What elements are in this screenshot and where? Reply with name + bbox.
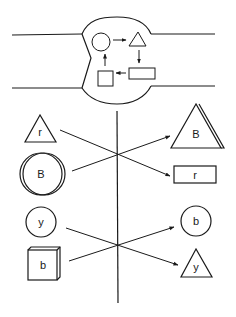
label-left-B: B	[37, 168, 44, 180]
cycle-triangle	[129, 32, 146, 46]
label-right-y: y	[193, 261, 199, 273]
chamber-bottom-arc	[82, 86, 151, 104]
label-right-B: B	[192, 128, 199, 140]
channel-chamber	[12, 17, 215, 104]
channel-top-left-wall	[12, 34, 82, 35]
label-left-y: y	[38, 216, 44, 228]
label-left-b: b	[40, 259, 46, 271]
cycle-circle	[92, 33, 110, 51]
mapping-2: y b b y	[26, 206, 212, 280]
chamber-left-wall	[82, 34, 91, 88]
right-triangle-B	[171, 104, 221, 148]
line-b-to-circle	[69, 227, 174, 261]
line-y-to-triangle	[66, 228, 178, 265]
cycle	[92, 32, 155, 86]
chamber-top-arc	[82, 17, 151, 34]
label-right-b: b	[193, 215, 199, 227]
vertical-divider	[117, 111, 118, 303]
label-right-r: r	[193, 169, 197, 181]
right-triangle-B-back	[199, 104, 224, 148]
mapping-1: r B B r	[20, 104, 224, 195]
cycle-square	[98, 71, 113, 86]
label-left-r: r	[38, 126, 42, 138]
cycle-rectangle	[129, 68, 155, 79]
diagram: r B B r y b b y	[0, 0, 236, 317]
